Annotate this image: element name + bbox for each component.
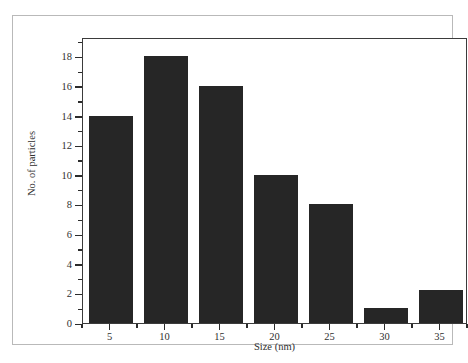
tick-mark: [78, 72, 82, 73]
tick-mark: [78, 220, 82, 221]
plot-box: [82, 38, 467, 324]
bar: [309, 204, 353, 323]
tick-mark: [75, 57, 82, 59]
tick-mark: [329, 324, 331, 330]
tick-mark: [136, 324, 137, 328]
y-tick-label: 16: [62, 79, 73, 95]
tick-mark: [191, 324, 192, 328]
tick-mark: [109, 324, 111, 330]
tick-mark: [78, 249, 82, 250]
tick-mark: [81, 324, 82, 328]
bars-container: [83, 39, 466, 323]
bar: [144, 56, 188, 323]
tick-mark: [78, 42, 82, 43]
y-tick-label: 18: [62, 49, 73, 65]
tick-mark: [78, 160, 82, 161]
y-tick-label: 10: [62, 168, 73, 184]
tick-mark: [78, 279, 82, 280]
bar: [254, 175, 298, 323]
tick-mark: [78, 309, 82, 310]
tick-mark: [274, 324, 276, 330]
y-tick-label: 12: [62, 138, 73, 154]
tick-mark: [75, 146, 82, 148]
tick-mark: [384, 324, 386, 330]
tick-mark: [78, 101, 82, 102]
bar: [199, 86, 243, 323]
tick-mark: [411, 324, 412, 328]
x-axis-title: Size (nm): [82, 341, 467, 352]
tick-mark: [75, 86, 82, 88]
y-tick-label: 4: [67, 257, 72, 273]
tick-mark: [75, 294, 82, 296]
tick-mark: [246, 324, 247, 328]
tick-mark: [75, 235, 82, 237]
y-tick-label: 14: [62, 109, 73, 125]
bar: [89, 116, 133, 323]
tick-mark: [219, 324, 221, 330]
tick-mark: [75, 116, 82, 118]
bar: [419, 290, 463, 323]
tick-mark: [466, 324, 467, 328]
y-tick-label: 8: [67, 197, 72, 213]
tick-mark: [356, 324, 357, 328]
tick-mark: [301, 324, 302, 328]
y-axis-title: No. of particles: [26, 99, 37, 229]
tick-mark: [78, 131, 82, 132]
tick-mark: [78, 190, 82, 191]
figure-frame: 024681012141618 5101520253035 Size (nm) …: [12, 15, 453, 345]
y-axis: 024681012141618: [13, 38, 82, 324]
tick-mark: [439, 324, 441, 330]
tick-mark: [75, 175, 82, 177]
tick-mark: [164, 324, 166, 330]
y-tick-label: 6: [67, 227, 72, 243]
y-tick-label: 0: [67, 316, 72, 332]
bar: [364, 308, 408, 323]
tick-mark: [75, 264, 82, 266]
tick-mark: [75, 205, 82, 207]
y-tick-label: 2: [67, 286, 72, 302]
